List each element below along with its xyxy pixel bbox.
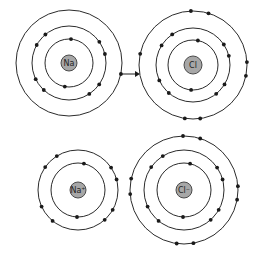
electron-dot	[236, 184, 240, 188]
electron-dot	[214, 92, 218, 96]
nucleus-label: Cl⁻	[178, 186, 190, 195]
electron-dot	[55, 154, 59, 158]
electron-dot	[44, 33, 48, 37]
electron-dot	[167, 91, 171, 95]
electron-dot	[97, 40, 101, 44]
electron-dot	[111, 208, 115, 212]
electron-dot	[235, 198, 239, 202]
ionic-bond-diagram: NaClNa⁺Cl⁻	[0, 0, 256, 258]
electron-dot	[87, 92, 91, 96]
electron-dot	[207, 11, 211, 15]
electron-dot	[245, 60, 249, 64]
atom-cl: Cl	[138, 9, 249, 120]
electron-dot	[63, 85, 67, 89]
electron-transfer-arrow	[121, 71, 140, 77]
electron-dot	[198, 137, 202, 141]
atom-na_ion: Na⁺	[38, 150, 119, 230]
electron-dot	[196, 39, 200, 43]
electron-dot	[198, 117, 202, 121]
electron-dot	[51, 219, 55, 223]
electron-dot	[183, 117, 187, 121]
electron-dot	[160, 44, 164, 48]
atom-cl_ion: Cl⁻	[128, 134, 240, 245]
electron-dot	[222, 43, 226, 47]
electron-dot	[119, 72, 123, 76]
electron-dot	[244, 74, 248, 78]
electron-dot	[34, 77, 38, 81]
electron-dot	[43, 165, 47, 169]
electron-dot	[157, 219, 161, 223]
atom-na: Na	[16, 10, 123, 116]
electron-dot	[175, 242, 179, 246]
nucleus-label: Na	[64, 59, 75, 68]
nucleus-label: Na⁺	[70, 186, 85, 195]
electron-dot	[42, 88, 46, 92]
electron-dot	[109, 166, 113, 170]
electron-dot	[157, 79, 161, 83]
electron-dot	[69, 37, 73, 41]
electron-dot	[149, 165, 153, 169]
electron-dot	[40, 205, 44, 209]
electron-dot	[217, 208, 221, 212]
electron-dot	[181, 215, 185, 219]
electron-dot	[115, 178, 119, 182]
electron-dot	[146, 205, 150, 209]
electron-dot	[223, 83, 227, 87]
electron-dot	[170, 33, 174, 37]
electron-dot	[181, 134, 185, 138]
electron-dot	[209, 218, 213, 222]
electron-dot	[161, 154, 165, 158]
electron-dot	[82, 162, 86, 166]
electron-dot	[221, 178, 225, 182]
electron-dot	[189, 9, 193, 13]
electron-dot	[188, 162, 192, 166]
electron-dot	[35, 43, 39, 47]
electron-dot	[189, 88, 193, 92]
electron-dot	[103, 52, 107, 56]
electron-dot	[128, 192, 132, 196]
electron-dot	[75, 215, 79, 219]
electron-dot	[227, 54, 231, 58]
electron-dot	[129, 177, 133, 181]
electron-dot	[138, 52, 142, 56]
nucleus-label: Cl	[189, 61, 197, 70]
electron-dot	[103, 218, 107, 222]
electron-dot	[215, 166, 219, 170]
electron-dot	[192, 241, 196, 245]
electron-dot	[97, 83, 101, 87]
